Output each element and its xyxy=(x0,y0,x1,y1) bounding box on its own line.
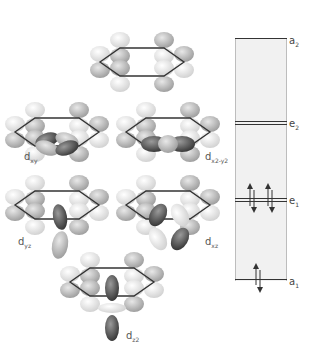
label-e1: e1 xyxy=(289,195,299,208)
label-dz2: dz2 xyxy=(126,330,139,343)
electron-pair-e1-2 xyxy=(268,186,272,210)
label-a2: a2 xyxy=(289,35,299,48)
level-a2 xyxy=(235,38,287,39)
label-a1: a1 xyxy=(289,276,299,289)
level-e2 xyxy=(235,121,287,125)
label-dxy: dxy xyxy=(24,151,37,164)
label-dyz: dyz xyxy=(18,236,31,249)
orbital-dz2 xyxy=(60,252,164,341)
orbital-dxy xyxy=(5,102,109,162)
orbital-illustrations xyxy=(0,0,232,357)
electron-arrows xyxy=(235,180,287,295)
label-e2: e2 xyxy=(289,118,299,131)
label-dx2-y2: dx2-y2 xyxy=(205,151,228,164)
benzene-ring-top xyxy=(90,32,194,92)
electron-pair-e1-1 xyxy=(250,186,254,210)
label-dxz: dxz xyxy=(205,236,218,249)
electron-pair-a1 xyxy=(256,266,260,290)
